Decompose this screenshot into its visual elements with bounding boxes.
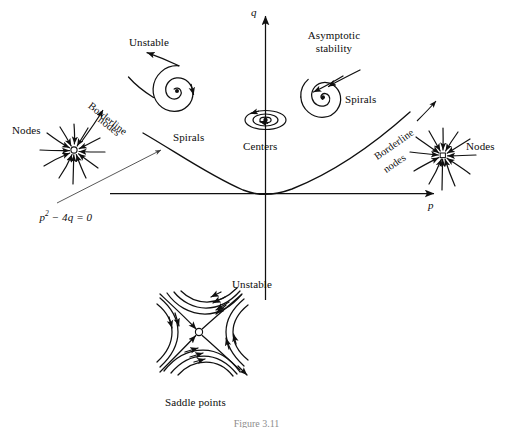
node-right-escape-arrow — [417, 101, 436, 121]
figure-root: Unstable Asymptotic stability Spirals Sp… — [0, 0, 513, 428]
label-spirals-left: Spirals — [173, 131, 204, 143]
saddle-point-portrait — [157, 288, 248, 376]
label-unstable-top: Unstable — [129, 36, 169, 48]
parabola-curve — [143, 112, 410, 194]
node-left — [40, 124, 105, 184]
label-centers: Centers — [243, 140, 277, 152]
equation-rest: − 4q = 0 — [49, 211, 92, 223]
label-nodes-right: Nodes — [466, 140, 495, 152]
label-asymptotic-stability-line1: Asymptotic — [296, 29, 372, 41]
axis-label-p: p — [428, 199, 434, 211]
label-parabola-equation: p2 − 4q = 0 — [28, 199, 92, 236]
label-asymptotic-stability-line2: stability — [296, 42, 372, 54]
node-right — [410, 128, 476, 190]
label-unstable-bottom: Unstable — [232, 278, 272, 290]
curve-label-leader — [57, 150, 161, 203]
axes-group — [110, 16, 434, 300]
label-nodes-left: Nodes — [12, 124, 41, 136]
unstable-spiral-left — [129, 53, 195, 112]
axis-label-q: q — [251, 6, 257, 18]
label-saddle-points: Saddle points — [165, 396, 226, 408]
label-spirals-right: Spirals — [345, 93, 376, 105]
figure-caption: Figure 3.11 — [0, 418, 513, 428]
